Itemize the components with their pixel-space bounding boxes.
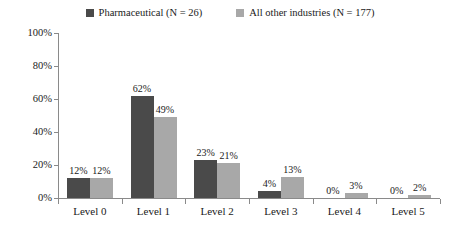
category-label: Level 0: [58, 206, 122, 217]
bar-value-label: 49%: [150, 105, 181, 115]
x-axis-tick-mark: [440, 199, 441, 204]
y-axis-tick-label: 0%: [18, 193, 52, 204]
bar-value-label: 2%: [404, 183, 435, 193]
category-label: Level 5: [376, 206, 440, 217]
y-axis-tick-label: 20%: [18, 160, 52, 171]
x-axis-tick-mark: [313, 199, 314, 204]
y-axis-tick-label: 100%: [18, 28, 52, 39]
y-axis-tick-mark: [54, 165, 58, 166]
category-label: Level 4: [313, 206, 377, 217]
x-axis-tick-mark: [185, 199, 186, 204]
y-axis-tick-label: 60%: [18, 94, 52, 105]
category-label: Level 3: [249, 206, 313, 217]
bar-value-label: 21%: [213, 151, 244, 161]
bar-chart: Pharmaceutical (N = 26) All other indust…: [0, 0, 460, 236]
x-axis-tick-mark: [58, 199, 59, 204]
bar-value-label: 62%: [127, 84, 158, 94]
x-axis-tick-mark: [249, 199, 250, 204]
bar-value-label: 13%: [277, 165, 308, 175]
bar: [217, 163, 240, 198]
y-axis-tick-mark: [54, 99, 58, 100]
bar-value-label: 3%: [341, 181, 372, 191]
bar: [154, 117, 177, 198]
bar: [194, 160, 217, 198]
y-axis-tick-mark: [54, 33, 58, 34]
bar: [345, 193, 368, 198]
category-label: Level 1: [122, 206, 186, 217]
y-axis-tick-label: 40%: [18, 127, 52, 138]
bar: [408, 195, 431, 198]
y-axis-line: [58, 33, 59, 198]
y-axis-tick-mark: [54, 66, 58, 67]
y-axis-tick-mark: [54, 132, 58, 133]
category-label: Level 2: [185, 206, 249, 217]
y-axis-tick-label: 80%: [18, 61, 52, 72]
x-axis-tick-mark: [122, 199, 123, 204]
bar: [67, 178, 90, 198]
bar-value-label: 12%: [86, 166, 117, 176]
bar: [90, 178, 113, 198]
bar: [281, 177, 304, 198]
bar: [258, 191, 281, 198]
plot-area: 0%20%40%60%80%100% 12%12%62%49%23%21%4%1…: [0, 0, 460, 236]
x-axis-tick-mark: [376, 199, 377, 204]
